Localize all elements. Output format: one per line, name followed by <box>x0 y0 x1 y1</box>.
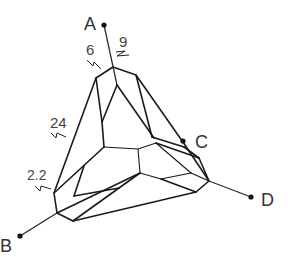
zigzag-arrow-icon <box>35 186 51 191</box>
edge <box>161 173 191 179</box>
label-b: B <box>0 236 12 256</box>
crystal-diagram: A B C D 6 9 24 2.2 <box>0 0 292 257</box>
dimension-2-2: 2.2 <box>27 167 47 183</box>
dimension-6: 6 <box>86 41 94 58</box>
edge <box>102 85 117 122</box>
point-c-dot <box>180 138 185 143</box>
point-a-dot <box>101 22 106 27</box>
edge <box>54 147 104 193</box>
dimension-24: 24 <box>50 114 67 131</box>
edge <box>152 137 184 147</box>
label-d: D <box>261 190 274 210</box>
center-facet <box>104 143 156 149</box>
outer-edge <box>54 67 209 221</box>
dimension-9: 9 <box>119 33 127 50</box>
edge <box>161 179 196 192</box>
label-c: C <box>195 132 208 152</box>
edge <box>102 122 104 147</box>
edge <box>140 173 161 179</box>
point-d-dot <box>248 194 253 199</box>
zigzag-arrow-icon <box>51 133 66 138</box>
edge <box>138 149 140 173</box>
axis-b <box>20 213 57 236</box>
axis-a <box>104 25 117 85</box>
label-a: A <box>84 14 96 34</box>
point-b-dot <box>17 233 22 238</box>
edge <box>96 78 102 122</box>
zigzag-arrow-icon <box>116 51 129 56</box>
edge <box>119 173 140 188</box>
edge <box>136 75 152 137</box>
axis-d <box>209 181 251 197</box>
zigzag-arrow-icon <box>87 60 101 69</box>
